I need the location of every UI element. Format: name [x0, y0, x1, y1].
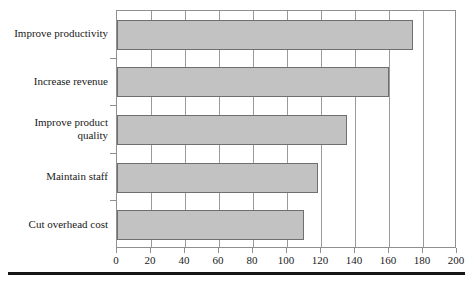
- bar-track: [117, 67, 457, 97]
- x-axis-tick-20: [150, 248, 151, 253]
- y-axis-tick-4: [110, 200, 116, 201]
- x-axis-tick-140: [354, 248, 355, 253]
- x-axis-tick-80: [252, 248, 253, 253]
- x-axis-tick-200: [456, 248, 457, 253]
- y-axis-label-line: Increase revenue: [0, 75, 108, 88]
- bar-track: [117, 20, 457, 50]
- x-axis-tick-100: [286, 248, 287, 253]
- y-axis-label-1: Increase revenue: [0, 75, 108, 88]
- x-axis-tick-60: [218, 248, 219, 253]
- y-axis-label-line: Improve productivity: [0, 27, 108, 40]
- x-axis-tick-180: [422, 248, 423, 253]
- x-axis-label-200: 200: [436, 254, 473, 267]
- bar-track: [117, 163, 457, 193]
- y-axis-label-2: Improve productquality: [0, 116, 108, 142]
- y-axis-label-0: Improve productivity: [0, 27, 108, 40]
- x-axis-tick-120: [320, 248, 321, 253]
- y-axis-tick-1: [110, 58, 116, 59]
- bar[interactable]: [117, 210, 304, 240]
- plot-area: [116, 10, 456, 248]
- bar[interactable]: [117, 67, 389, 97]
- bar-track: [117, 115, 457, 145]
- y-axis-label-line: Improve product: [0, 116, 108, 129]
- x-axis-tick-40: [184, 248, 185, 253]
- bar[interactable]: [117, 20, 413, 50]
- bar-chart-figure: Improve productivityIncrease revenueImpr…: [0, 0, 473, 288]
- bar[interactable]: [117, 115, 347, 145]
- clipped-caption: [12, 279, 452, 288]
- x-axis-tick-160: [388, 248, 389, 253]
- x-axis-tick-0: [116, 248, 117, 253]
- bottom-rule: [8, 272, 465, 275]
- y-axis-label-line: Cut overhead cost: [0, 218, 108, 231]
- y-axis-tick-2: [110, 105, 116, 106]
- y-axis-label-line: Maintain staff: [0, 170, 108, 183]
- y-axis-label-line: quality: [0, 129, 108, 142]
- y-axis-label-3: Maintain staff: [0, 170, 108, 183]
- bar-track: [117, 210, 457, 240]
- y-axis-tick-3: [110, 153, 116, 154]
- bar[interactable]: [117, 163, 318, 193]
- y-axis-label-4: Cut overhead cost: [0, 218, 108, 231]
